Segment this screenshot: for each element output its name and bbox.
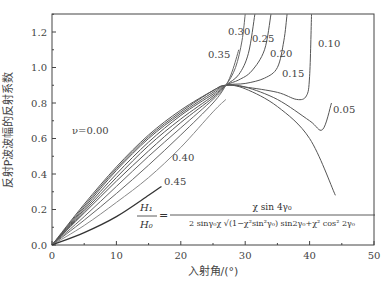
x-tick-label: 50 (368, 250, 381, 261)
x-tick-label: 0 (49, 250, 55, 261)
curve-label: 0.15 (282, 68, 304, 79)
curve-label: 0.10 (318, 38, 340, 49)
curve-label: 0.40 (172, 152, 194, 163)
x-tick-label: 40 (303, 250, 316, 261)
curve-label: 0.05 (333, 104, 355, 115)
formula-numerator: χ sin 4γ₀ (252, 202, 292, 212)
curve-label: 0.25 (252, 33, 274, 44)
x-tick-label: 10 (110, 250, 123, 261)
y-tick-label: 0.4 (31, 169, 47, 180)
formula-equals: = (159, 209, 168, 222)
x-axis-title: 入射角/(°) (188, 264, 239, 278)
x-tick-label: 30 (239, 250, 252, 261)
y-tick-label: 1.2 (31, 27, 47, 38)
y-tick-label: 0.0 (31, 240, 47, 251)
y-axis-title: 反射P波波幅的反射系数 (1, 72, 15, 189)
formula-lhs-num: H₁ (139, 202, 153, 213)
y-tick-label: 1.0 (31, 62, 47, 73)
reflection-coefficient-chart: 010203040500.00.20.40.60.81.01.2 ν=0.000… (0, 0, 388, 292)
formula-denominator: 2 sinγ₀χ √(1−χ²sin²γ₀) sin2γ₀+χ² cos² 2γ… (189, 219, 355, 228)
curve-label: ν=0.00 (72, 125, 109, 136)
formula-lhs-den: H₀ (139, 219, 153, 230)
curve-label: 0.45 (164, 176, 186, 187)
curve-labels: ν=0.000.050.100.150.200.250.300.350.400.… (72, 26, 355, 187)
y-tick-label: 0.2 (31, 204, 47, 215)
curve-label: 0.20 (270, 48, 292, 59)
y-tick-label: 0.8 (31, 98, 47, 109)
formula: H₁ H₀ = χ sin 4γ₀ 2 sinγ₀χ √(1−χ²sin²γ₀)… (137, 202, 375, 230)
y-tick-label: 0.6 (31, 133, 47, 144)
curve-label: 0.30 (228, 26, 250, 37)
curve-label: 0.35 (208, 49, 230, 60)
x-tick-label: 20 (174, 250, 187, 261)
